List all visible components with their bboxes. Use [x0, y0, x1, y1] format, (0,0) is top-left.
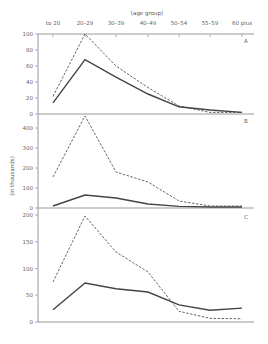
x-tick-label: to 20: [46, 20, 61, 26]
stacked-line-chart: (age group) to 20 20–29 30–39 40–49 50–5…: [0, 0, 268, 344]
svg-text:150: 150: [23, 239, 34, 245]
svg-text:100: 100: [23, 185, 34, 191]
svg-text:60: 60: [26, 63, 33, 69]
panel-c-y-ticks: 0 50 100 150 200: [23, 212, 39, 325]
panel-b-y-ticks: 0 100 200 300 400: [23, 125, 39, 211]
panel-c-solid-series: [53, 283, 242, 310]
panel-c-dashed-series: [53, 216, 242, 319]
x-tick-label: 20–29: [77, 20, 94, 26]
svg-text:0: 0: [30, 205, 34, 211]
svg-text:0: 0: [30, 319, 34, 325]
svg-text:0: 0: [30, 111, 34, 117]
panel-b: 0 100 200 300 400 B: [23, 116, 255, 211]
y-axis-title: (in thousands): [9, 156, 15, 196]
svg-text:200: 200: [23, 165, 34, 171]
svg-text:100: 100: [23, 266, 34, 272]
panel-b-dashed-series: [53, 116, 242, 206]
svg-text:40: 40: [26, 79, 33, 85]
svg-text:80: 80: [26, 47, 33, 53]
panel-b-solid-series: [53, 195, 242, 207]
svg-text:300: 300: [23, 145, 34, 151]
panel-a-label: A: [244, 38, 248, 44]
svg-text:400: 400: [23, 125, 34, 131]
svg-text:50: 50: [26, 292, 33, 298]
panel-c: 0 50 100 150 200 C: [23, 212, 255, 325]
x-tick-label: 55–59: [202, 20, 219, 26]
x-tick-label: 30–39: [108, 20, 125, 26]
x-axis-title: (age group): [131, 10, 163, 17]
x-tick-label: 60 plus: [232, 20, 252, 27]
x-tick-label: 40–49: [140, 20, 157, 26]
svg-text:20: 20: [26, 95, 33, 101]
panel-b-label: B: [244, 118, 248, 124]
svg-text:200: 200: [23, 212, 34, 218]
panel-a-solid-series: [53, 60, 242, 113]
panel-a-y-ticks: 0 20 40 60 80 100: [23, 31, 39, 117]
panel-a: 0 20 40 60 80 100 A: [23, 31, 255, 117]
x-tick-labels: to 20 20–29 30–39 40–49 50–54 55–59 60 p…: [46, 20, 252, 27]
svg-text:100: 100: [23, 31, 34, 37]
panel-c-label: C: [244, 214, 248, 220]
x-tick-label: 50–54: [171, 20, 188, 26]
panel-a-dashed-series: [53, 34, 242, 112]
